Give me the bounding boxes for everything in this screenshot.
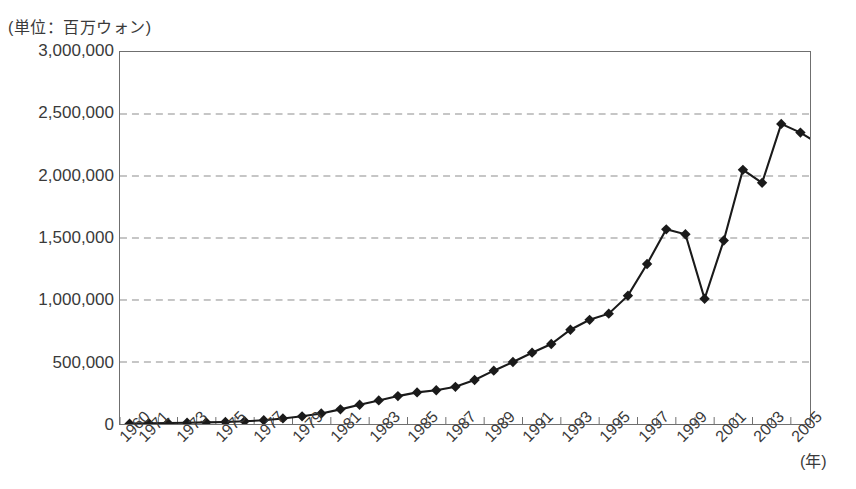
x-axis-tick-label: 2001 [712,408,750,446]
x-axis-tick-label: 1989 [481,408,519,446]
x-axis-tick-label: 1979 [289,408,327,446]
x-axis-tick-label: 2005 [788,408,826,446]
x-axis-tick-label: 2003 [750,408,788,446]
x-axis-tick-label: 1973 [173,408,211,446]
x-axis-tick-label: 1977 [250,408,288,446]
x-axis-tick-label: 1987 [442,408,480,446]
x-axis-tick-label: 1983 [366,408,404,446]
x-axis-tick-label: 1993 [558,408,596,446]
x-axis-tick-label: 1991 [519,408,557,446]
x-axis-tick-label: 1999 [673,408,711,446]
x-axis-tick-label: 1981 [327,408,365,446]
x-axis-tick-labels: 1960197119731975197719791981198319851987… [0,0,856,489]
x-axis-tick-label: 1975 [212,408,250,446]
x-axis-tick-label: 1985 [404,408,442,446]
x-axis-unit-label: (年) [800,448,827,472]
x-axis-tick-label: 1997 [635,408,673,446]
x-axis-tick-label: 1995 [596,408,634,446]
chart-container: (単位：百万ウォン) 0500,0001,000,0001,500,0002,0… [0,0,856,489]
